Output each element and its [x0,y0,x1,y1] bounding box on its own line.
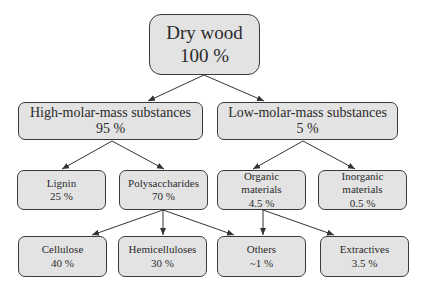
node-value: 25 % [50,190,73,203]
node-value: ~1 % [250,257,273,270]
node-value: 5 % [296,121,318,137]
node-extractives: Extractives 3.5 % [320,236,409,277]
node-others: Others ~1 % [217,236,306,277]
node-lignin: Lignin 25 % [17,170,106,210]
node-high-molar-mass: High-molar-mass substances 95 % [18,102,203,140]
node-label-line2: materials [241,183,281,196]
arrow-poly-to-cellulose [92,210,163,235]
arrow-poly-to-others [163,210,234,235]
arrow-high-to-poly [112,141,164,169]
node-label: Lignin [47,177,76,190]
node-label: Others [247,243,276,256]
arrow-low-to-organic [253,141,303,169]
arrow-organic-to-extractives [263,210,334,235]
node-hemicelluloses: Hemicelluloses 30 % [118,236,207,277]
node-inorganic-materials: Inorganic materials 0.5 % [318,170,407,210]
node-organic-materials: Organic materials 4.5 % [217,170,306,210]
node-label: Low-molar-mass substances [228,105,387,121]
node-label-line1: Inorganic [342,170,384,183]
node-label: Hemicelluloses [129,243,197,256]
arrow-root-to-low [204,75,264,101]
node-value: 0.5 % [350,197,376,210]
node-label-line2: materials [342,183,382,196]
node-dry-wood: Dry wood 100 % [149,14,260,75]
node-value: 4.5 % [249,197,275,210]
node-label-line1: Organic [244,170,279,183]
node-label: Cellulose [42,243,84,256]
node-value: 40 % [51,257,74,270]
node-value: 100 % [180,45,229,68]
node-cellulose: Cellulose 40 % [18,236,107,277]
node-value: 30 % [151,257,174,270]
node-label: Polysaccharides [128,177,199,190]
node-value: 70 % [152,190,175,203]
node-label: Dry wood [166,22,243,45]
node-polysaccharides: Polysaccharides 70 % [119,170,208,210]
arrow-low-to-inorganic [303,141,355,169]
node-label: Extractives [340,243,389,256]
node-label: High-molar-mass substances [30,105,191,121]
node-low-molar-mass: Low-molar-mass substances 5 % [217,102,398,140]
arrow-root-to-high [148,75,204,101]
node-value: 3.5 % [352,257,378,270]
arrow-high-to-lignin [62,141,112,169]
node-value: 95 % [96,121,125,137]
